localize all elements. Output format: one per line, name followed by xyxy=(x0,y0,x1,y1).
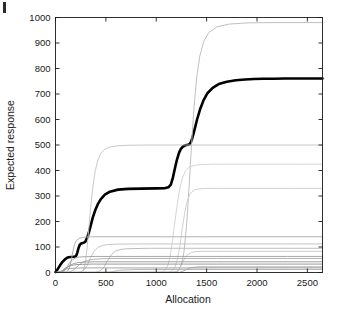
x-axis-label: Allocation xyxy=(165,293,211,305)
x-tick-label: 0 xyxy=(53,277,58,288)
y-tick-label: 700 xyxy=(35,88,51,99)
x-tick-labels: 05001000150020002500 xyxy=(53,277,318,288)
x-tick-label: 500 xyxy=(98,277,114,288)
y-tick-label: 900 xyxy=(35,37,51,48)
y-tick-labels: 01002003004005006007008009001000 xyxy=(29,12,50,278)
y-tick-label: 600 xyxy=(35,114,51,125)
x-tick-label: 1000 xyxy=(146,277,167,288)
y-axis-label: Expected response xyxy=(4,100,16,190)
series-component-980 xyxy=(56,23,323,273)
expected-response-vs-allocation-chart: 05001000150020002500 0100200300400500600… xyxy=(0,0,337,312)
y-tick-label: 400 xyxy=(35,165,51,176)
y-tick-label: 1000 xyxy=(29,12,50,23)
scan-artifact-mark xyxy=(3,2,6,13)
y-tick-label: 0 xyxy=(45,267,50,278)
figure-panel: 05001000150020002500 0100200300400500600… xyxy=(0,0,337,312)
x-tick-label: 2500 xyxy=(297,277,318,288)
y-tick-label: 200 xyxy=(35,216,51,227)
series-component-330 xyxy=(56,188,323,272)
y-tick-label: 100 xyxy=(35,241,51,252)
y-tick-label: 500 xyxy=(35,139,51,150)
series-total-expected-response xyxy=(56,78,323,272)
series-component-12-mid xyxy=(56,269,323,272)
series-component-95 xyxy=(56,248,323,272)
series-component-55 xyxy=(56,258,323,272)
y-tick-label: 300 xyxy=(35,190,51,201)
y-tick-label: 800 xyxy=(35,63,51,74)
x-tick-label: 2000 xyxy=(246,277,267,288)
x-tick-label: 1500 xyxy=(196,277,217,288)
series-layer xyxy=(56,23,323,273)
